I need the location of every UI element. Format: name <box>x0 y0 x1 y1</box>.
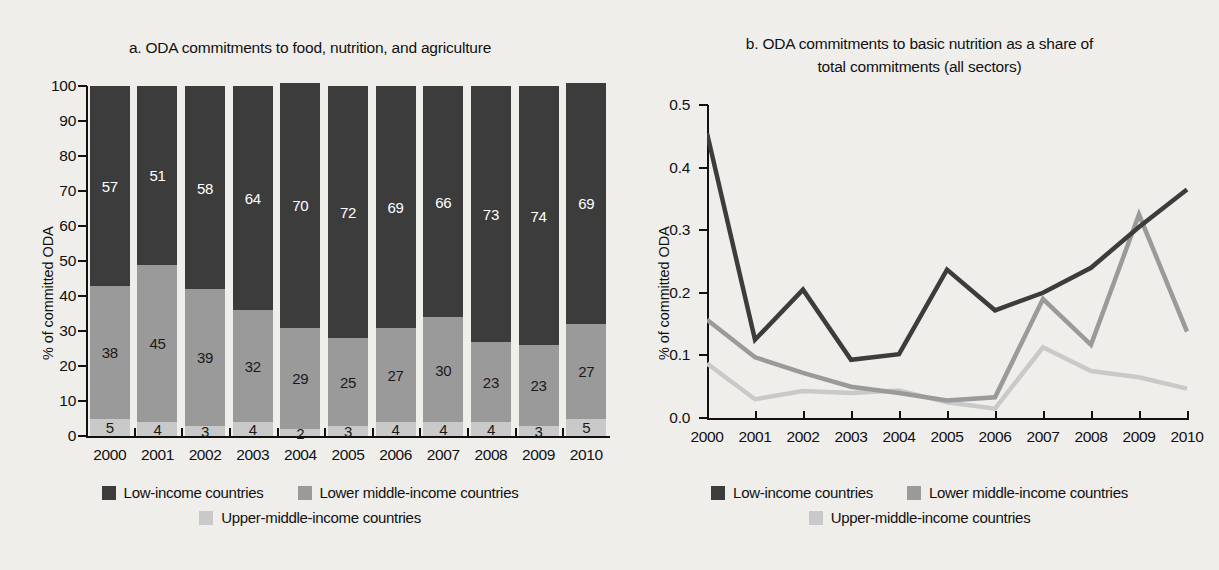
panel-b-legend-item-upper-middle-income: Upper-middle-income countries <box>809 509 1031 526</box>
bar-value-upper-middle: 5 <box>566 419 606 436</box>
bar-2001: 44551 <box>137 86 177 436</box>
bar-segment-lower-middle: 23 <box>519 345 559 426</box>
bar-segment-upper-middle: 4 <box>471 422 511 436</box>
bar-segment-low-income: 69 <box>376 86 416 328</box>
bar-segment-lower-middle: 23 <box>471 342 511 423</box>
bar-segment-lower-middle: 25 <box>328 338 368 426</box>
bar-segment-low-income: 69 <box>566 83 606 325</box>
bar-value-low-income: 73 <box>471 205 511 222</box>
bar-segment-lower-middle: 29 <box>280 328 320 430</box>
bar-segment-low-income: 58 <box>185 86 225 289</box>
panel-b-title-line2: total commitments (all sectors) <box>620 57 1219 77</box>
bar-value-lower-middle: 30 <box>423 361 463 378</box>
bar-segment-upper-middle: 3 <box>328 426 368 437</box>
bar-value-low-income: 69 <box>566 195 606 212</box>
bar-segment-upper-middle: 5 <box>566 419 606 437</box>
bar-2004: 22970 <box>280 86 320 436</box>
panel-b-legend-label-lower-middle-income: Lower middle-income countries <box>929 484 1128 501</box>
panel-a-legend-label-upper-middle-income: Upper-middle-income countries <box>221 509 421 526</box>
bar-value-lower-middle: 38 <box>90 344 130 361</box>
bar-2000: 53857 <box>90 86 130 436</box>
bar-2002: 33958 <box>185 86 225 436</box>
line-series-0 <box>707 133 1187 360</box>
bar-value-upper-middle: 4 <box>137 421 177 438</box>
bar-value-lower-middle: 32 <box>233 358 273 375</box>
bar-value-low-income: 69 <box>376 198 416 215</box>
panel-a-y-tick-0: 0 <box>32 427 76 445</box>
bar-2009: 32374 <box>519 86 559 436</box>
bar-segment-low-income: 51 <box>137 86 177 265</box>
panel-a-legend-item-low-income: Low-income countries <box>102 484 264 501</box>
panel-a-title: a. ODA commitments to food, nutrition, a… <box>0 38 620 58</box>
panel-a-legend-label-low-income: Low-income countries <box>124 484 264 501</box>
panel-a-legend-item-lower-middle-income: Lower middle-income countries <box>298 484 519 501</box>
bar-segment-lower-middle: 45 <box>137 265 177 423</box>
panel-b-line-series <box>707 105 1189 420</box>
panel-b-y-tick-0.2: 0.2 <box>646 284 690 302</box>
panel-a-x-tick-2010: 2010 <box>556 446 616 464</box>
panel-a-y-tick-80: 80 <box>32 147 76 165</box>
panel-a-y-tick-100: 100 <box>32 77 76 95</box>
panel-a-y-tick-30: 30 <box>32 322 76 340</box>
panel-a-legend: Low-income countriesLower middle-income … <box>0 484 620 526</box>
bar-value-low-income: 57 <box>90 177 130 194</box>
bar-segment-low-income: 70 <box>280 83 320 328</box>
panel-b-line-chart: b. ODA commitments to basic nutrition as… <box>620 0 1219 548</box>
panel-a-y-tick-40: 40 <box>32 287 76 305</box>
bar-segment-low-income: 64 <box>233 86 273 310</box>
panel-b-legend-label-low-income: Low-income countries <box>733 484 873 501</box>
bar-2010: 52769 <box>566 86 606 436</box>
bar-segment-upper-middle: 4 <box>376 422 416 436</box>
bar-segment-upper-middle: 4 <box>233 422 273 436</box>
panel-a-y-tick-90: 90 <box>32 112 76 130</box>
bar-segment-low-income: 57 <box>90 86 130 286</box>
bar-segment-low-income: 74 <box>519 86 559 345</box>
panel-a-legend-item-upper-middle-income: Upper-middle-income countries <box>199 509 421 526</box>
panel-b-legend-swatch-upper-middle-income <box>809 511 823 525</box>
panel-b-y-tick-0.3: 0.3 <box>646 221 690 239</box>
bar-value-lower-middle: 27 <box>376 366 416 383</box>
bar-segment-lower-middle: 27 <box>376 328 416 423</box>
panel-b-legend-swatch-low-income <box>711 486 725 500</box>
bar-value-low-income: 58 <box>185 179 225 196</box>
bar-value-low-income: 64 <box>233 190 273 207</box>
bar-value-lower-middle: 29 <box>280 370 320 387</box>
panel-b-y-tick-0.4: 0.4 <box>646 159 690 177</box>
bar-segment-upper-middle: 4 <box>423 422 463 436</box>
panel-a-legend-row-1: Low-income countriesLower middle-income … <box>0 484 620 501</box>
bar-value-lower-middle: 39 <box>185 349 225 366</box>
panel-a-y-tick-20: 20 <box>32 357 76 375</box>
panel-a-bars: 5385744551339584326422970325724276943066… <box>86 86 610 436</box>
panel-a-legend-swatch-upper-middle-income <box>199 511 213 525</box>
panel-b-title-line1: b. ODA commitments to basic nutrition as… <box>620 34 1219 54</box>
panel-a-y-tick-10: 10 <box>32 392 76 410</box>
panel-b-legend-row-1: Low-income countriesLower middle-income … <box>620 484 1219 501</box>
bar-segment-lower-middle: 38 <box>90 286 130 419</box>
panel-a-y-tick-50: 50 <box>32 252 76 270</box>
panel-b-legend-item-lower-middle-income: Lower middle-income countries <box>907 484 1128 501</box>
bar-2007: 43066 <box>423 86 463 436</box>
panel-b-y-tick-0.0: 0.0 <box>646 409 690 427</box>
bar-value-lower-middle: 27 <box>566 363 606 380</box>
panel-b-y-tick-0.5: 0.5 <box>646 96 690 114</box>
bar-segment-upper-middle: 4 <box>137 422 177 436</box>
bar-value-upper-middle: 4 <box>233 421 273 438</box>
panel-b-legend: Low-income countriesLower middle-income … <box>620 484 1219 526</box>
bar-segment-upper-middle: 5 <box>90 419 130 437</box>
bar-segment-upper-middle: 3 <box>185 426 225 437</box>
bar-value-low-income: 51 <box>137 167 177 184</box>
bar-value-upper-middle: 4 <box>471 421 511 438</box>
bar-segment-lower-middle: 39 <box>185 289 225 426</box>
bar-value-lower-middle: 25 <box>328 373 368 390</box>
bar-2008: 42373 <box>471 86 511 436</box>
panel-a-stacked-bar-chart: a. ODA commitments to food, nutrition, a… <box>0 0 620 548</box>
panel-b-legend-row-2: Upper-middle-income countries <box>620 509 1219 526</box>
panel-a-legend-row-2: Upper-middle-income countries <box>0 509 620 526</box>
bar-value-low-income: 66 <box>423 193 463 210</box>
bar-segment-lower-middle: 27 <box>566 324 606 419</box>
bar-segment-lower-middle: 30 <box>423 317 463 422</box>
panel-b-x-tick-2010: 2010 <box>1157 428 1217 446</box>
bar-value-low-income: 72 <box>328 204 368 221</box>
bar-segment-low-income: 73 <box>471 86 511 342</box>
panel-a-y-tick-60: 60 <box>32 217 76 235</box>
